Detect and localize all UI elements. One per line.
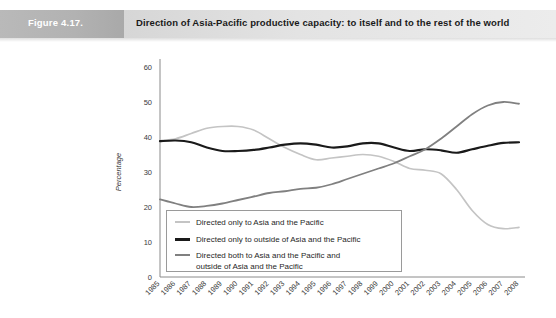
x-tick-label: 2007 [487, 279, 505, 297]
x-tick-label: 1987 [174, 279, 192, 297]
legend-item[interactable]: Directed only to outside of Asia and the… [175, 235, 361, 246]
y-tick-label: 0 [148, 273, 152, 282]
x-tick-label: 2003 [424, 279, 442, 297]
legend-swatch-icon [175, 254, 190, 264]
y-tick-label: 50 [144, 98, 152, 107]
chart-container: 0102030405060 19851986198719881989199019… [0, 42, 556, 318]
legend-item-label: Directed only to Asia and the Pacific [196, 218, 324, 229]
legend-item-label: Directed only to outside of Asia and the… [196, 235, 361, 246]
y-tick-label: 60 [144, 63, 152, 72]
x-axis: 1985198619871988198919901991199219931994… [143, 277, 525, 297]
x-tick-label: 1997 [331, 279, 349, 297]
x-tick-label: 1996 [315, 279, 333, 297]
x-tick-label: 2004 [440, 279, 458, 297]
x-tick-label: 1992 [253, 279, 271, 297]
x-tick-label: 1991 [237, 279, 255, 297]
x-tick-label: 1995 [299, 279, 317, 297]
legend-item[interactable]: Directed only to Asia and the Pacific [175, 218, 324, 229]
x-tick-label: 1994 [284, 279, 302, 297]
x-tick-label: 2008 [502, 279, 520, 297]
x-tick-label: 1999 [362, 279, 380, 297]
x-tick-label: 2005 [455, 279, 473, 297]
y-tick-label: 20 [144, 203, 152, 212]
figure-number-label: Figure 4.17. [28, 17, 83, 28]
x-tick-label: 2001 [393, 279, 411, 297]
legend-swatch-icon [175, 238, 190, 248]
legend-item-label: Directed both to Asia and the Pacific an… [196, 251, 340, 272]
x-tick-label: 2006 [471, 279, 489, 297]
y-tick-label: 10 [144, 238, 152, 247]
figure-title-label: Direction of Asia-Pacific productive cap… [136, 17, 509, 28]
x-tick-label: 1998 [346, 279, 364, 297]
y-axis: 0102030405060 [144, 59, 160, 282]
y-axis-title: Percentage [114, 153, 123, 191]
chart-legend: Directed only to Asia and the PacificDir… [166, 210, 402, 272]
legend-swatch-icon [175, 221, 190, 231]
y-tick-label: 30 [144, 168, 152, 177]
series-line-2 [160, 140, 519, 152]
x-tick-label: 1988 [190, 279, 208, 297]
x-tick-label: 1985 [143, 279, 161, 297]
line-chart: 0102030405060 19851986198719881989199019… [0, 42, 556, 318]
x-tick-label: 2000 [377, 279, 395, 297]
x-tick-label: 1986 [159, 279, 177, 297]
x-tick-label: 1990 [221, 279, 239, 297]
y-tick-label: 40 [144, 133, 152, 142]
x-tick-label: 2002 [409, 279, 427, 297]
x-tick-label: 1989 [206, 279, 224, 297]
legend-item[interactable]: Directed both to Asia and the Pacific an… [175, 251, 340, 272]
x-tick-label: 1993 [268, 279, 286, 297]
series-line-3 [160, 102, 519, 207]
figure-header-banner: Figure 4.17. Direction of Asia-Pacific p… [0, 10, 556, 38]
